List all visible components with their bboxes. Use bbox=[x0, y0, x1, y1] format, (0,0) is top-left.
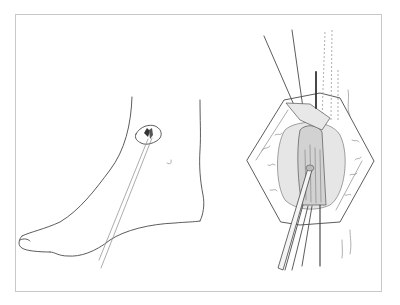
probe-line bbox=[101, 138, 152, 268]
foot-drawing bbox=[19, 97, 204, 268]
surgical-view-drawing bbox=[247, 30, 374, 270]
retractor bbox=[264, 36, 297, 112]
medical-illustration bbox=[0, 0, 400, 305]
incision-detail bbox=[144, 128, 150, 137]
